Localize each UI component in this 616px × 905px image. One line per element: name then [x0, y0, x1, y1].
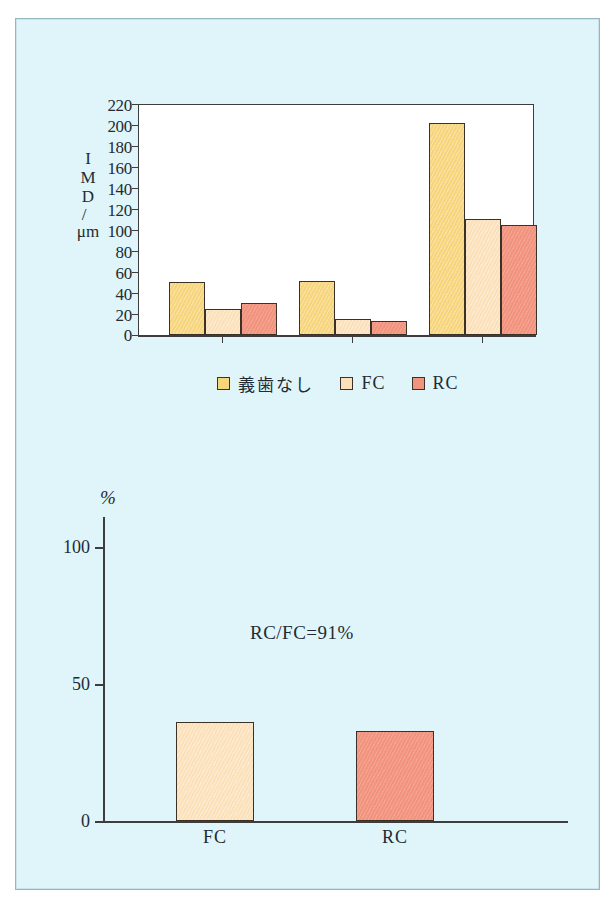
- imd-bar-g0-fc: [205, 309, 241, 335]
- ratio-bar-chart: % 100 50 0 FC RC: [16, 459, 601, 879]
- imd-ytick-80: 80: [68, 244, 132, 261]
- imd-legend: 義歯なし FC RC: [138, 371, 538, 396]
- imd-ytick-20: 20: [68, 307, 132, 324]
- legend-item-no-denture[interactable]: 義歯なし: [217, 371, 314, 396]
- imd-xtick-group-1: [352, 336, 353, 343]
- ratio-annotation-text: RC/FC=91%: [250, 622, 354, 644]
- ratio-ytick-mark-50: [95, 684, 103, 686]
- ratio-y-axis-unit: %: [100, 487, 116, 509]
- legend-swatch-icon-no-denture: [217, 377, 230, 390]
- imd-bar-g0-rc: [241, 303, 277, 335]
- ratio-xtick-label-fc: FC: [175, 827, 255, 848]
- legend-swatch-icon-fc: [340, 377, 353, 390]
- imd-ytick-0: 0: [68, 327, 132, 344]
- imd-ytick-160: 160: [68, 160, 132, 177]
- imd-xtick-group-2: [482, 336, 483, 343]
- ratio-x-axis-line: [103, 821, 568, 823]
- ratio-ytick-100: 100: [46, 538, 90, 556]
- legend-label-fc: FC: [361, 373, 385, 394]
- imd-bar-chart: I M D / μm 220 200 180 160 140 120 100 8…: [16, 19, 601, 419]
- ratio-ytick-mark-0: [95, 821, 103, 823]
- imd-xtick-group-0: [222, 336, 223, 343]
- ratio-y-axis-line: [103, 517, 105, 822]
- imd-ytick-120: 120: [68, 202, 132, 219]
- imd-bar-g2-fc: [465, 219, 501, 335]
- imd-bar-g1-rc: [371, 321, 407, 335]
- imd-x-axis-line: [138, 335, 536, 337]
- imd-ytick-40: 40: [68, 286, 132, 303]
- legend-item-rc[interactable]: RC: [412, 373, 459, 394]
- legend-label-no-denture: 義歯なし: [238, 371, 314, 396]
- imd-ytick-60: 60: [68, 265, 132, 282]
- imd-ytick-140: 140: [68, 181, 132, 198]
- imd-ytick-180: 180: [68, 139, 132, 156]
- imd-bar-g2-no-denture: [429, 123, 465, 335]
- ratio-ytick-50: 50: [46, 675, 90, 693]
- imd-bar-g0-no-denture: [169, 282, 205, 335]
- imd-bar-g1-no-denture: [299, 281, 335, 335]
- imd-ytick-200: 200: [68, 118, 132, 135]
- ratio-bar-rc: [356, 731, 434, 821]
- imd-plot-area: [138, 104, 534, 336]
- ratio-ytick-mark-100: [95, 547, 103, 549]
- imd-ytick-100: 100: [68, 223, 132, 240]
- ratio-bar-fc: [176, 722, 254, 821]
- figure-panel: I M D / μm 220 200 180 160 140 120 100 8…: [15, 18, 600, 890]
- legend-item-fc[interactable]: FC: [340, 373, 385, 394]
- imd-bar-g2-rc: [501, 225, 537, 335]
- legend-label-rc: RC: [433, 373, 459, 394]
- legend-swatch-icon-rc: [412, 377, 425, 390]
- ratio-xtick-label-rc: RC: [355, 827, 435, 848]
- ratio-ytick-0: 0: [46, 812, 90, 830]
- imd-ytick-220: 220: [68, 97, 132, 114]
- imd-bar-g1-fc: [335, 319, 371, 335]
